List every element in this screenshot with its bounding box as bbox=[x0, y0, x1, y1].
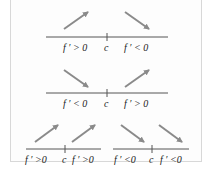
label-c: c bbox=[62, 155, 66, 165]
arrow-down-icon bbox=[64, 70, 88, 87]
label-right: f ′ > 0 bbox=[124, 99, 148, 109]
label-right: f ′ >0 bbox=[72, 155, 94, 165]
arrow-up-icon bbox=[125, 70, 149, 87]
label-c: c bbox=[104, 43, 108, 53]
arrow-down-icon bbox=[125, 12, 149, 29]
label-c: c bbox=[149, 155, 153, 165]
diagram-local-minimum bbox=[46, 70, 168, 97]
label-left: f ′ > 0 bbox=[63, 43, 87, 53]
diagram-increasing bbox=[26, 125, 101, 153]
label-left: f ′ <0 bbox=[114, 155, 136, 165]
arrow-down-icon bbox=[121, 125, 144, 142]
arrow-down-icon bbox=[159, 125, 182, 142]
label-left: f ′ < 0 bbox=[63, 99, 87, 109]
arrow-up-icon bbox=[72, 125, 95, 142]
arrow-up-icon bbox=[64, 12, 88, 29]
label-left: f ′ >0 bbox=[25, 155, 47, 165]
label-right: f ′ <0 bbox=[160, 155, 182, 165]
arrow-up-icon bbox=[35, 125, 58, 142]
label-c: c bbox=[104, 99, 108, 109]
diagram-decreasing bbox=[113, 125, 189, 153]
diagram-local-maximum bbox=[46, 12, 168, 41]
label-right: f ′ < 0 bbox=[124, 43, 148, 53]
